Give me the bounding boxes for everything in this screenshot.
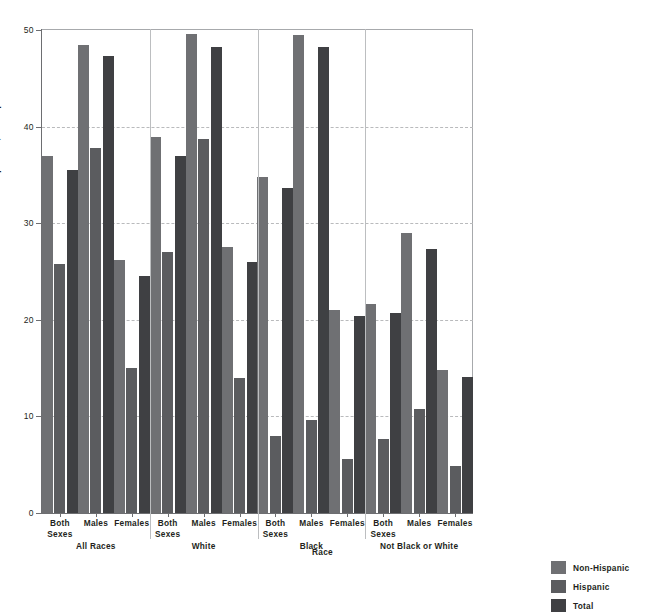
x-axis-tick-mark (311, 513, 312, 517)
legend-swatch-icon (551, 580, 566, 593)
bar (365, 304, 376, 513)
legend-swatch-icon (551, 599, 566, 612)
bar (90, 148, 101, 513)
x-axis-tick-mark (275, 513, 276, 517)
x-axis-subgroup-label: Females (423, 518, 487, 529)
y-axis-tick-mark (36, 223, 41, 224)
bar (211, 47, 222, 513)
bar (198, 139, 209, 513)
chart-root: Deaths per 100,000 Population 0102030405… (0, 0, 645, 616)
x-axis-tick-mark (168, 513, 169, 517)
legend-label: Non-Hispanic (573, 563, 629, 573)
group-separator (258, 29, 259, 539)
x-axis-tick-mark (204, 513, 205, 517)
bar (318, 47, 329, 513)
bar (293, 35, 304, 513)
bar (139, 276, 150, 513)
legend-swatch-icon (551, 561, 566, 574)
y-axis-title: Deaths per 100,000 Population (0, 0, 1, 206)
y-axis-tick-label: 30 (4, 218, 34, 228)
bar (186, 34, 197, 513)
bar (42, 156, 53, 513)
bar (450, 466, 461, 513)
x-axis-tick-mark (240, 513, 241, 517)
bar (462, 377, 473, 513)
y-axis-tick-mark (36, 320, 41, 321)
bar (378, 439, 389, 513)
x-axis-tick-mark (60, 513, 61, 517)
legend-label: Hispanic (573, 582, 610, 592)
group-separator (365, 29, 366, 539)
x-axis-tick-mark (419, 513, 420, 517)
x-axis-title: Race (0, 547, 645, 557)
bar (247, 262, 258, 513)
legend-item-total[interactable]: Total (551, 597, 629, 614)
x-axis-tick-mark (383, 513, 384, 517)
bar (270, 436, 281, 513)
y-axis-tick-label: 10 (4, 411, 34, 421)
bar (114, 260, 125, 513)
bar (175, 156, 186, 513)
y-axis-tick-mark (36, 127, 41, 128)
bar (162, 252, 173, 513)
group-separator (150, 29, 151, 539)
bar (257, 177, 268, 513)
bar (414, 409, 425, 513)
bar (234, 378, 245, 513)
bar (390, 313, 401, 513)
bar (150, 137, 161, 513)
x-axis-tick-mark (347, 513, 348, 517)
bar (401, 233, 412, 513)
legend: Non-Hispanic Hispanic Total (551, 559, 629, 616)
y-axis-tick-label: 20 (4, 315, 34, 325)
y-axis-tick-label: 0 (4, 508, 34, 518)
y-axis-tick-label: 40 (4, 122, 34, 132)
y-axis-tick-mark (36, 30, 41, 31)
legend-item-hispanic[interactable]: Hispanic (551, 578, 629, 595)
bar (426, 249, 437, 513)
bar (329, 310, 340, 513)
bar (126, 368, 137, 513)
bar (222, 247, 233, 513)
y-axis-tick-label: 50 (4, 25, 34, 35)
bar (342, 459, 353, 513)
bar (437, 370, 448, 513)
bar (282, 188, 293, 513)
bar (306, 420, 317, 513)
y-axis-tick-mark (36, 513, 41, 514)
bar (78, 45, 89, 513)
x-axis-tick-mark (132, 513, 133, 517)
x-axis-tick-mark (96, 513, 97, 517)
legend-label: Total (573, 601, 593, 611)
header-strip (0, 0, 645, 9)
bar (103, 56, 114, 513)
x-axis-tick-mark (455, 513, 456, 517)
bar (54, 264, 65, 513)
legend-item-non-hispanic[interactable]: Non-Hispanic (551, 559, 629, 576)
bar (67, 170, 78, 513)
y-axis-tick-mark (36, 416, 41, 417)
bar (354, 316, 365, 513)
